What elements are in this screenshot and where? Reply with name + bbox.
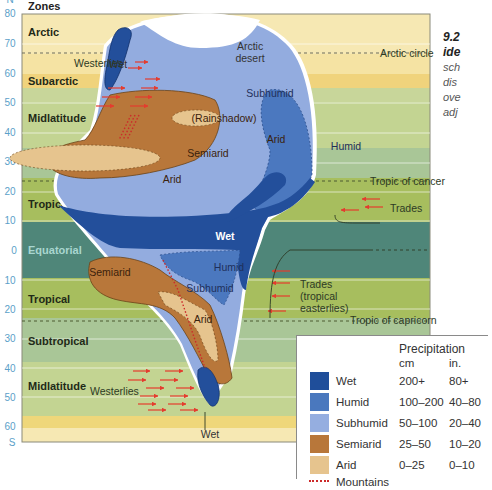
trades-south-label: Trades	[300, 278, 332, 290]
humid-south-label: Humid	[214, 261, 245, 273]
svg-text:80: 80	[4, 8, 16, 19]
tropic-cancer-label: Tropic of cancer	[370, 175, 445, 187]
semiarid-label: Semiarid	[187, 147, 229, 159]
legend-row-semiarid: Semiarid 25–50 10–20	[297, 435, 488, 457]
figure-caption: 9.2 ide sch dis ove adj	[443, 30, 492, 120]
legend-row-subhumid: Subhumid 50–100 20–40	[297, 414, 488, 436]
precipitation-legend: Precipitation cm in. Wet 200+ 80+ Humid …	[296, 335, 488, 479]
humid-east-label: Humid	[331, 140, 362, 152]
legend-row-mountains: Mountains	[297, 473, 488, 490]
svg-text:50: 50	[4, 97, 16, 108]
zones-header: Zones	[28, 0, 60, 12]
hemisphere-north: N	[6, 0, 13, 5]
svg-text:Arctic: Arctic	[28, 26, 59, 38]
svg-text:40: 40	[4, 127, 16, 138]
swatch-semiarid	[310, 435, 329, 453]
westerlies-north-label: Westerlies	[74, 57, 123, 69]
semiarid-south-label: Semiarid	[89, 266, 131, 278]
trades-north-label: Trades	[390, 202, 422, 214]
svg-text:70: 70	[4, 38, 16, 49]
svg-text:30: 30	[4, 333, 16, 344]
svg-text:Midlatitude: Midlatitude	[28, 380, 86, 392]
svg-text:10: 10	[4, 215, 16, 226]
subhumid-label: Subhumid	[246, 87, 293, 99]
arctic-circle-label: Arctic circle	[380, 47, 434, 59]
legend-title: Precipitation	[399, 342, 465, 356]
svg-text:20: 20	[4, 304, 16, 315]
swatch-subhumid	[310, 414, 329, 432]
hemisphere-south: S	[9, 437, 16, 448]
svg-text:40: 40	[4, 363, 16, 374]
arid-south-label: Arid	[194, 313, 213, 325]
svg-text:Equatorial: Equatorial	[28, 244, 82, 256]
wet-tip-label: Wet	[201, 428, 220, 440]
legend-row-humid: Humid 100–200 40–80	[297, 393, 488, 415]
legend-unit-in: in.	[449, 357, 461, 369]
svg-text:desert: desert	[235, 52, 264, 64]
legend-unit-cm: cm	[399, 357, 414, 369]
arctic-desert-label: Arctic	[237, 40, 263, 52]
svg-text:easterlies): easterlies)	[300, 302, 348, 314]
svg-text:(tropical: (tropical	[300, 290, 337, 302]
mountains-dots-icon	[309, 480, 329, 482]
swatch-humid	[310, 393, 329, 411]
svg-text:Tropical: Tropical	[28, 293, 70, 305]
latitude-axis: N 80 70 60 50 40 30 20 10 0 10 20 30 40 …	[4, 0, 17, 448]
svg-text:60: 60	[4, 68, 16, 79]
svg-text:Midlatitude: Midlatitude	[28, 112, 86, 124]
subhumid-south-label: Subhumid	[186, 282, 233, 294]
svg-text:Subtropical: Subtropical	[28, 335, 89, 347]
svg-text:Subarctic: Subarctic	[28, 75, 78, 87]
swatch-arid	[310, 456, 329, 474]
westerlies-south-label: Westerlies	[90, 385, 139, 397]
svg-text:50: 50	[4, 392, 16, 403]
tropic-capricorn-label: Tropic of capricorn	[350, 314, 437, 326]
svg-text:20: 20	[4, 186, 16, 197]
svg-text:60: 60	[4, 421, 16, 432]
rainshadow-label: (Rainshadow)	[192, 112, 257, 124]
swatch-wet	[310, 372, 329, 390]
arid-inner-label: Arid	[267, 133, 286, 145]
arid-west-label: Arid	[163, 173, 182, 185]
svg-text:10: 10	[4, 275, 16, 286]
legend-row-wet: Wet 200+ 80+	[297, 372, 488, 394]
wet-equator-label: Wet	[215, 230, 235, 242]
svg-text:0: 0	[11, 245, 17, 256]
